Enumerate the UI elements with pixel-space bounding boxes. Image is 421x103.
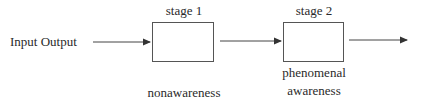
stage1-title: stage 1 xyxy=(166,4,202,18)
stage2-caption-line2: awareness xyxy=(287,84,340,98)
stage1-box xyxy=(153,23,214,62)
stage2-box xyxy=(284,23,344,62)
stage2-caption-line1: phenomenal xyxy=(282,66,346,80)
stage2-title: stage 2 xyxy=(296,4,332,18)
input-output-label: Input Output xyxy=(10,35,77,49)
stage1-caption: nonawareness xyxy=(148,86,221,100)
flow-diagram: Input Output stage 1 nonawareness stage … xyxy=(0,0,421,103)
